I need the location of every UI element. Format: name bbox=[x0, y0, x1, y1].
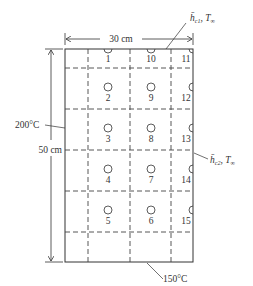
node-14-marker bbox=[189, 165, 193, 173]
height-dimension bbox=[45, 49, 63, 262]
node-label: 9 bbox=[149, 93, 154, 103]
plate-outline bbox=[65, 49, 193, 262]
node-label: 15 bbox=[181, 216, 191, 226]
node-label: 12 bbox=[181, 93, 191, 103]
node-label: 10 bbox=[146, 54, 156, 64]
bottom-temperature-label: 150°C bbox=[163, 274, 187, 284]
horizontal-grid-lines bbox=[65, 68, 193, 232]
width-label: 30 cm bbox=[109, 34, 133, 44]
node-label: 13 bbox=[181, 134, 191, 144]
left-temperature-label: 200°C bbox=[15, 120, 39, 130]
node-11-marker bbox=[189, 49, 193, 53]
top-convection-leader bbox=[166, 23, 186, 49]
node-label: 7 bbox=[149, 175, 154, 185]
nodes bbox=[104, 49, 193, 214]
height-label: 50 cm bbox=[39, 145, 63, 155]
node-7-marker bbox=[147, 165, 155, 173]
node-label: 14 bbox=[181, 175, 191, 185]
node-label: 11 bbox=[181, 54, 190, 64]
node-label: 5 bbox=[106, 216, 111, 226]
node-6-marker bbox=[147, 206, 155, 214]
node-4-marker bbox=[104, 165, 112, 173]
node-label: 4 bbox=[106, 175, 111, 185]
node-label: 3 bbox=[106, 134, 111, 144]
node-5-marker bbox=[104, 206, 112, 214]
node-13-marker bbox=[189, 124, 193, 132]
right-convection-leader bbox=[194, 153, 208, 159]
right-convection-label: h̄c2, T∞ bbox=[210, 154, 235, 166]
top-convection-label: h̄c1, T∞ bbox=[190, 12, 215, 24]
node-label: 2 bbox=[106, 93, 111, 103]
node-label: 8 bbox=[149, 134, 154, 144]
node-2-marker bbox=[104, 83, 112, 91]
node-label: 6 bbox=[149, 216, 154, 226]
node-15-marker bbox=[189, 206, 193, 214]
node-3-marker bbox=[104, 124, 112, 132]
vertical-grid-lines bbox=[88, 49, 171, 262]
node-9-marker bbox=[147, 83, 155, 91]
left-temperature-leader bbox=[45, 125, 65, 128]
node-labels: 1 10 11 2 9 12 3 8 13 4 7 14 5 6 15 bbox=[106, 54, 191, 226]
node-10-marker bbox=[147, 49, 155, 53]
node-1-marker bbox=[104, 49, 112, 53]
bottom-temperature-leader bbox=[147, 263, 163, 279]
node-8-marker bbox=[147, 124, 155, 132]
heat-transfer-grid-diagram: 30 cm 50 cm 200°C 150°C h̄c1, T∞ h̄c2, T… bbox=[0, 0, 253, 286]
node-12-marker bbox=[189, 83, 193, 91]
node-label: 1 bbox=[106, 54, 111, 64]
